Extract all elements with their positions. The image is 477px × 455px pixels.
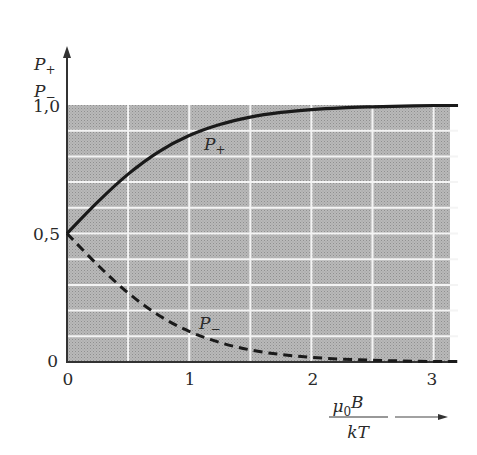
x-tick-2: 2 (308, 369, 319, 389)
y-tick-1: 1,0 (33, 96, 60, 116)
chart: P+ P− 1,0 0,5 0 0 1 2 3 P+ P− μ0B kT (0, 0, 477, 455)
y-axis-arrow-icon (63, 46, 71, 58)
svg-text:kT: kT (347, 422, 370, 442)
x-axis-label: μ0B kT (329, 392, 388, 442)
x-axis-arrow-icon (438, 414, 448, 420)
x-tick-3: 3 (427, 369, 438, 389)
y-tick-0-5: 0,5 (33, 224, 60, 244)
svg-text:μ0B: μ0B (332, 392, 363, 419)
x-tick-1: 1 (185, 369, 196, 389)
y-tick-0: 0 (47, 351, 58, 371)
x-tick-0: 0 (63, 369, 74, 389)
y-axis-label-p-plus: P+ (33, 54, 56, 77)
